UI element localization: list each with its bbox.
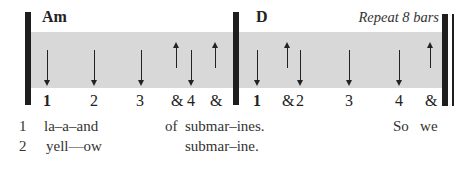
- beat-count: 2: [296, 92, 304, 110]
- beat-count: 4: [187, 92, 195, 110]
- chord-label: Am: [42, 8, 67, 26]
- beat-count: &: [282, 92, 294, 110]
- lyric-segment: submar–ine.: [185, 138, 259, 155]
- up-strum-arrow-icon: [430, 46, 431, 68]
- down-strum-arrow-icon: [349, 50, 350, 82]
- lyric-segment: la–a–and: [44, 118, 98, 135]
- down-strum-arrow-icon: [191, 50, 192, 82]
- verse-number: 2: [19, 138, 27, 155]
- beat-count: 1: [253, 92, 261, 110]
- down-strum-arrow-icon: [94, 50, 95, 82]
- beat-count: &: [171, 92, 183, 110]
- verse-number: 1: [19, 118, 27, 135]
- end-barline-thick: [442, 14, 448, 106]
- up-strum-arrow-icon: [176, 46, 177, 68]
- down-strum-arrow-icon: [300, 50, 301, 82]
- down-strum-arrow-icon: [399, 50, 400, 82]
- down-strum-arrow-icon: [47, 50, 48, 82]
- beat-count: 2: [90, 92, 98, 110]
- beat-count: 1: [43, 92, 51, 110]
- repeat-annotation: Repeat 8 bars: [358, 9, 439, 26]
- up-strum-arrow-icon: [215, 46, 216, 68]
- beat-count: 3: [136, 92, 144, 110]
- beat-count: &: [425, 92, 437, 110]
- beat-count: 4: [395, 92, 403, 110]
- beat-count: 3: [345, 92, 353, 110]
- lyric-segment: of submar–ines.: [165, 118, 265, 135]
- down-strum-arrow-icon: [257, 50, 258, 82]
- lyric-segment: yell—ow: [46, 138, 102, 155]
- beat-count: &: [210, 92, 222, 110]
- start-barline: [25, 12, 31, 105]
- lyric-segment: So we: [393, 118, 438, 135]
- up-strum-arrow-icon: [287, 46, 288, 68]
- down-strum-arrow-icon: [141, 50, 142, 82]
- middle-barline: [233, 12, 239, 105]
- chord-label: D: [256, 8, 268, 26]
- end-barline-thin: [452, 14, 454, 106]
